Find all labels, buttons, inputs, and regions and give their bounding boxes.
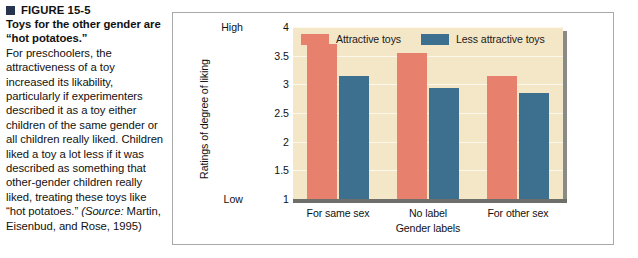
plot-area: Attractive toysLess attractive toys [293,27,563,199]
x-category-label: No label [409,207,447,219]
y-axis-high-label: High [221,21,243,33]
legend-label: Attractive toys [336,33,401,45]
y-tick-label: 2 [283,136,289,148]
y-tick-label: 3.5 [274,50,289,62]
legend-item: Attractive toys [301,33,401,45]
y-axis-endcaps: HighLow [195,27,243,199]
bar [397,53,427,199]
bar [519,93,549,199]
figure-source-prefix: (Source: [81,205,123,217]
bar [339,76,369,199]
figure-body-text: For preschoolers, the attractiveness of … [6,46,166,233]
legend-label: Less attractive toys [456,33,545,45]
x-category-label: For other sex [487,207,548,219]
y-tick-label: 1 [283,193,289,205]
x-axis-title: Gender labels [293,222,563,234]
legend-item: Less attractive toys [421,33,545,45]
chart-stage: Ratings of degree of liking HighLow 43.5… [173,13,613,244]
x-category-label: For same sex [307,207,370,219]
figure-title: Toys for the other gender are “hot potat… [6,17,166,46]
figure-heading: FIGURE 15-5 [6,4,166,16]
figure-number: FIGURE 15-5 [21,4,91,16]
legend-swatch-icon [421,34,449,45]
bar [307,44,337,199]
y-axis-low-label: Low [224,193,243,205]
legend-swatch-icon [301,34,329,45]
y-tick-label: 4 [283,21,289,33]
y-tick-label: 3 [283,78,289,90]
figure-body-main: For preschoolers, the attractiveness of … [6,47,163,217]
bar [429,88,459,199]
y-axis-ticks: 43.532.521.51 [245,27,289,199]
bar [487,76,517,199]
y-tick-label: 2.5 [274,107,289,119]
y-tick-label: 1.5 [274,164,289,176]
figure-caption: FIGURE 15-5 Toys for the other gender ar… [6,4,166,254]
x-axis-baseline [293,199,567,203]
chart-panel: Ratings of degree of liking HighLow 43.5… [172,12,614,245]
plot-shadow [563,31,567,203]
chart-legend: Attractive toysLess attractive toys [301,33,545,45]
bars-layer [293,27,563,199]
square-bullet-icon [6,6,15,15]
